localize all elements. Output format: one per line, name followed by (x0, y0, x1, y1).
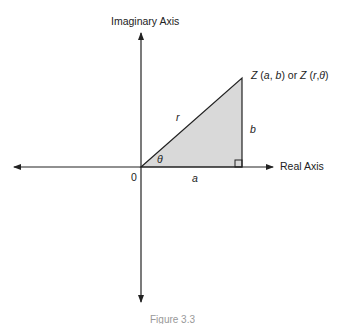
point-label: Z (a, b) or Z (r,θ) (251, 69, 329, 81)
angle-label: θ (157, 153, 163, 165)
real-axis-label: Real Axis (280, 160, 324, 172)
figure-caption: Figure 3.3 (150, 314, 195, 324)
imaginary-axis-label: Imaginary Axis (111, 15, 179, 27)
hypotenuse-label: r (176, 111, 180, 123)
adjacent-side-label: a (192, 172, 198, 184)
opposite-side-label: b (250, 123, 256, 135)
origin-label: 0 (131, 171, 137, 183)
